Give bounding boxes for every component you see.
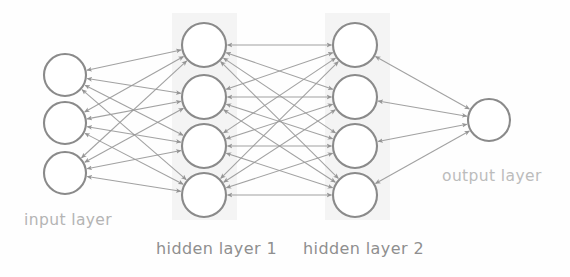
node-hidden1-4 [182,173,226,217]
edge-input-0-to-hidden1-0 [87,50,181,70]
edge-input-2-to-hidden1-3 [87,177,181,192]
edge-hidden2-1-to-output-0 [378,101,467,116]
node-hidden2-1 [333,23,377,67]
node-input-1 [44,54,86,96]
edge-input-0-to-hidden1-1 [87,79,181,94]
neural-network-diagram: input layer hidden layer 1 hidden layer … [0,0,570,277]
neuron-nodes [44,23,510,217]
node-hidden2-2 [333,75,377,119]
node-hidden2-3 [333,124,377,168]
node-output-1 [468,99,510,141]
edge-input-2-to-hidden1-0 [82,61,187,158]
label-hidden-layer-2: hidden layer 2 [303,239,424,258]
node-hidden1-2 [182,75,226,119]
node-hidden1-1 [182,23,226,67]
node-hidden2-4 [333,173,377,217]
label-output-layer: output layer [442,167,542,185]
node-input-3 [44,152,86,194]
edge-hidden2-2-to-output-0 [378,124,467,141]
network-canvas [0,0,570,277]
label-input-layer: input layer [24,211,112,229]
node-hidden1-3 [182,124,226,168]
node-input-2 [44,102,86,144]
connection-edges [82,45,470,195]
label-hidden-layer-1: hidden layer 1 [156,239,277,258]
